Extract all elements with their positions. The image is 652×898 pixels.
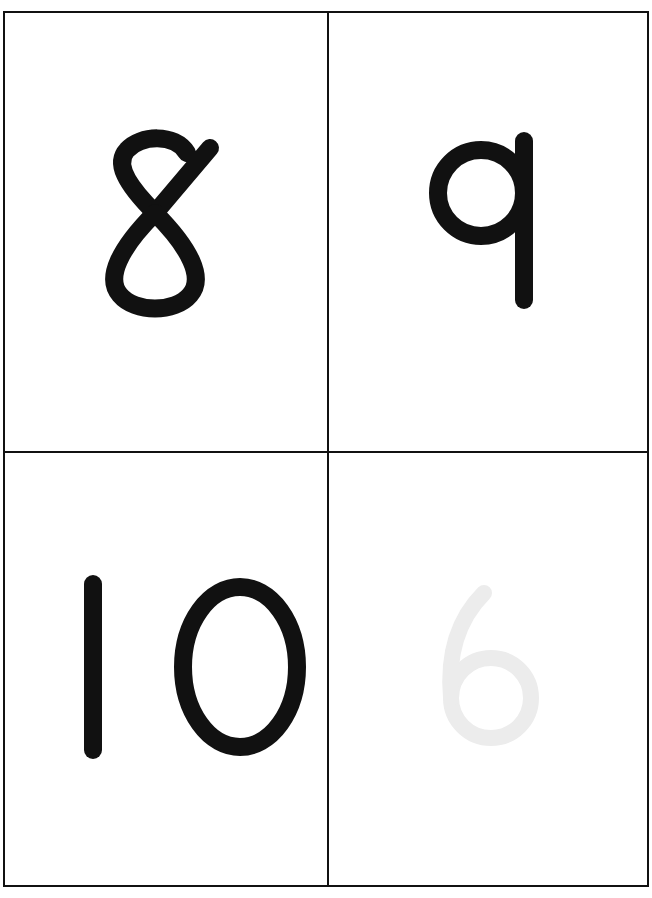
card-number-6-faint: 6: [329, 453, 647, 885]
flash-card-sheet: 8 9 10 6: [3, 11, 649, 887]
digit-8-glyph: [5, 13, 327, 451]
digit-6-glyph: [329, 453, 647, 885]
card-number-9: 9: [329, 13, 647, 451]
digit-10-glyph: [5, 453, 327, 885]
digit-9-glyph: [329, 13, 647, 451]
card-number-10: 10: [5, 453, 327, 885]
card-number-8: 8: [5, 13, 327, 451]
